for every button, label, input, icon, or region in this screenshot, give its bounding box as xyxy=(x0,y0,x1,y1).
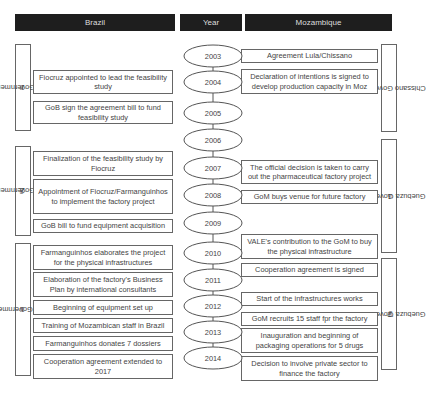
year-label: 2003 xyxy=(205,52,221,61)
year-label: 2011 xyxy=(205,276,221,285)
year-label: 2014 xyxy=(205,354,221,363)
year-label: 2013 xyxy=(205,328,221,337)
year-label: 2010 xyxy=(205,249,221,258)
year-label: 2012 xyxy=(205,302,221,311)
year-label: 2009 xyxy=(205,219,221,228)
year-label: 2005 xyxy=(205,109,221,118)
year-label: 2008 xyxy=(205,191,221,200)
year-label: 2004 xyxy=(205,78,221,87)
year-label: 2007 xyxy=(205,164,221,173)
year-label: 2006 xyxy=(205,136,221,145)
